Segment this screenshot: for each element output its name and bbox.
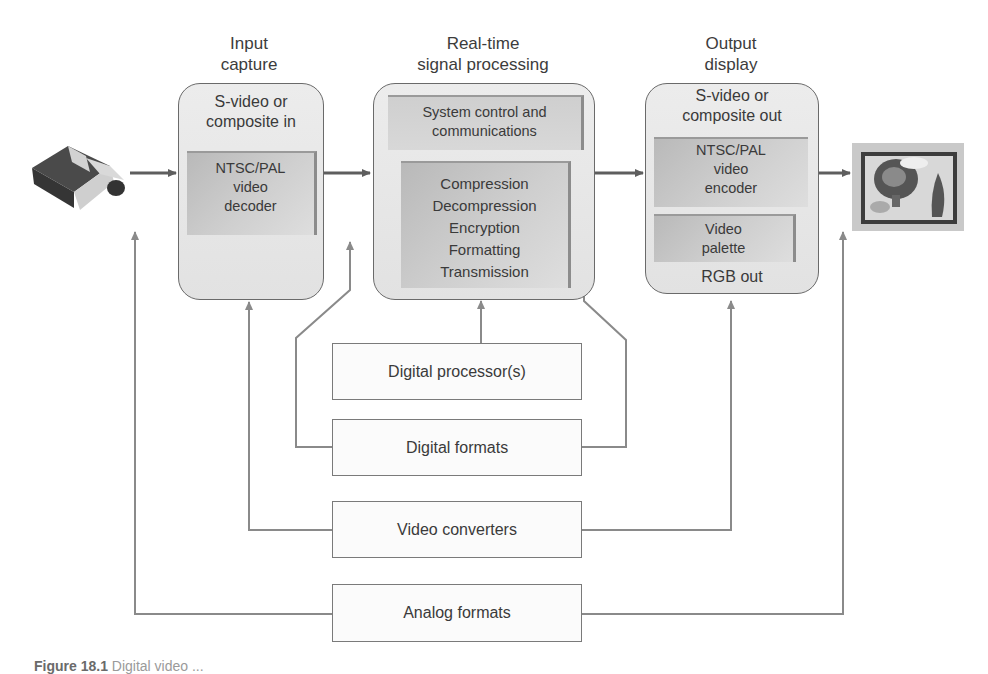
block-line: palette (654, 239, 793, 258)
stage-title-line: display (644, 54, 818, 75)
block-line: communications (388, 122, 581, 141)
ntsc-pal-encoder-block: NTSC/PAL video encoder (654, 137, 808, 207)
block-line: video (654, 160, 808, 179)
box-label: Video converters (397, 521, 517, 539)
block-line: NTSC/PAL (187, 159, 314, 178)
stage-box-label-line: S-video or (179, 92, 323, 112)
block-line: Compression (401, 173, 568, 195)
stage-title-line: Real-time (370, 33, 596, 54)
stage-box-label-line: composite in (179, 112, 323, 132)
block-line: Video (654, 220, 793, 239)
stage-title-line: Output (644, 33, 818, 54)
stage-title-output-display: Output display (644, 33, 818, 75)
stage-box-label-line: S-video or (646, 86, 818, 106)
figure-number: Figure 18.1 (34, 658, 108, 674)
analog-formats-box: Analog formats (332, 584, 582, 642)
compression-block: Compression Decompression Encryption For… (401, 161, 571, 288)
block-line: Formatting (401, 239, 568, 261)
display-monitor-icon (852, 143, 964, 231)
stage-box-label-line: composite out (646, 106, 818, 126)
stage-box-signal-processing: System control and communications Compre… (373, 83, 595, 300)
block-line: encoder (654, 179, 808, 198)
digital-processors-box: Digital processor(s) (332, 343, 582, 400)
stage-title-line: capture (176, 54, 322, 75)
stage-box-label: S-video or composite in (179, 92, 323, 132)
ntsc-pal-decoder-block: NTSC/PAL video decoder (187, 151, 317, 235)
box-label: Analog formats (403, 604, 511, 622)
video-palette-block: Video palette (654, 214, 796, 262)
block-line: video (187, 178, 314, 197)
stage-box-label: S-video or composite out (646, 86, 818, 126)
stage-box-input-capture: S-video or composite in NTSC/PAL video d… (178, 83, 324, 300)
stage-title-line: signal processing (370, 54, 596, 75)
caption-text: Digital video ... (112, 658, 204, 674)
digital-formats-box: Digital formats (332, 419, 582, 476)
rgb-out-label: RGB out (646, 267, 818, 287)
block-line: NTSC/PAL (654, 141, 808, 160)
block-line: decoder (187, 197, 314, 216)
block-line: Encryption (401, 217, 568, 239)
video-converters-box: Video converters (332, 501, 582, 558)
video-camera-icon (28, 138, 128, 218)
block-line: System control and (388, 103, 581, 122)
block-line: Decompression (401, 195, 568, 217)
box-label: Digital processor(s) (388, 363, 526, 381)
system-control-block: System control and communications (388, 95, 584, 150)
block-line: Transmission (401, 261, 568, 283)
stage-title-line: Input (176, 33, 322, 54)
stage-box-output-display: S-video or composite out NTSC/PAL video … (645, 83, 819, 294)
box-label: Digital formats (406, 439, 508, 457)
stage-title-input-capture: Input capture (176, 33, 322, 75)
figure-caption: Figure 18.1 Digital video ... (34, 658, 204, 674)
stage-title-signal-processing: Real-time signal processing (370, 33, 596, 75)
